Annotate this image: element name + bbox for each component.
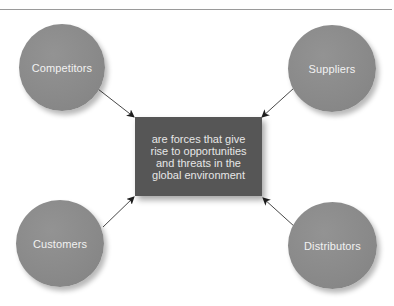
center-line-1: are forces that give [143, 133, 255, 145]
arrow-competitors-to-center [98, 89, 134, 117]
node-suppliers: Suppliers [288, 25, 376, 112]
center-line-3: and threats in the [143, 157, 255, 169]
node-competitors-label: Competitors [32, 62, 92, 74]
node-distributors: Distributors [288, 202, 377, 289]
arrow-distributors-to-center [263, 198, 295, 227]
center-definition-text: are forces that give rise to opportuniti… [143, 133, 255, 181]
center-line-4: global environment [143, 169, 255, 181]
arrow-suppliers-to-center [262, 88, 294, 117]
node-distributors-label: Distributors [304, 240, 361, 252]
node-competitors: Competitors [19, 24, 105, 111]
node-suppliers-label: Suppliers [309, 63, 356, 75]
arrow-customers-to-center [103, 197, 134, 227]
node-customers-label: Customers [33, 238, 87, 250]
center-definition-box: are forces that give rise to opportuniti… [135, 117, 262, 196]
node-customers: Customers [16, 200, 104, 287]
center-line-2: rise to opportunities [143, 145, 255, 157]
